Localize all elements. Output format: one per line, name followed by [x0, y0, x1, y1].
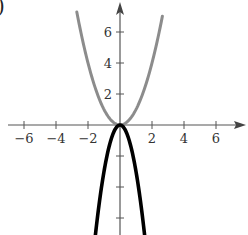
- x-tick-label: −2: [78, 131, 97, 146]
- x-tick-label: 4: [180, 131, 188, 146]
- y-tick-label: 4: [104, 56, 112, 71]
- y-tick-label: 2: [104, 87, 112, 102]
- x-tick-label: 2: [148, 131, 156, 146]
- axes: [8, 2, 246, 235]
- x-tick-label: −6: [14, 131, 33, 146]
- x-tick-label: −4: [46, 131, 65, 146]
- parabola-plot: −6−4−2246246: [0, 0, 248, 235]
- x-tick-label: 6: [212, 131, 220, 146]
- y-tick-label: 6: [104, 25, 112, 40]
